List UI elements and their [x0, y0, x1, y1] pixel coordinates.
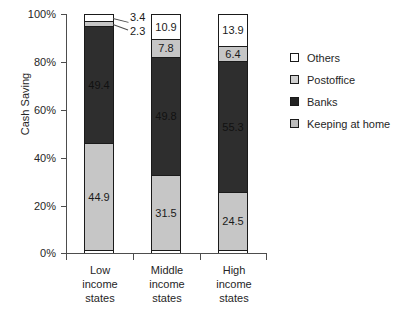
chart-legend: Others Postoffice Banks Keeping at home — [290, 48, 390, 136]
bar-low-income-states[interactable]: 3.4 2.3 49.4 44.9 — [84, 14, 114, 253]
x-category-label-high: High income states — [192, 263, 276, 305]
bar-value-keeping-at-home-middle: 31.5 — [155, 208, 176, 219]
callout-line-others-low — [113, 18, 129, 23]
bar-value-keeping-at-home-high: 24.5 — [222, 216, 243, 227]
y-axis-line — [66, 14, 67, 254]
y-tick-label-80: 80% — [0, 56, 56, 68]
bar-value-keeping-at-home-low: 44.9 — [88, 192, 109, 203]
legend-item-others[interactable]: Others — [290, 48, 390, 67]
bar-value-postoffice-middle: 7.8 — [158, 43, 173, 54]
legend-swatch-banks-icon — [290, 97, 299, 106]
bar-segment-others-middle[interactable]: 10.9 — [152, 14, 180, 40]
bar-value-banks-high: 55.3 — [222, 122, 243, 133]
x-tick-end — [266, 254, 267, 260]
callout-label-others-low: 3.4 — [130, 12, 145, 23]
legend-label-postoffice: Postoffice — [307, 74, 355, 86]
legend-item-keeping-at-home[interactable]: Keeping at home — [290, 114, 390, 133]
y-tick-40 — [61, 158, 67, 159]
y-tick-label-0: 0% — [0, 247, 56, 259]
bar-middle-income-states[interactable]: 10.9 7.8 49.8 31.5 — [151, 14, 181, 253]
bar-segment-banks-high[interactable]: 55.3 — [219, 61, 247, 193]
bar-segment-keeping-at-home-high[interactable]: 24.5 — [219, 192, 247, 251]
y-tick-20 — [61, 206, 67, 207]
bar-high-income-states[interactable]: 13.9 6.4 55.3 24.5 — [218, 14, 248, 253]
legend-swatch-postoffice-icon — [290, 75, 299, 84]
bar-value-others-high: 13.9 — [222, 25, 243, 36]
legend-item-postoffice[interactable]: Postoffice — [290, 70, 390, 89]
y-tick-label-100: 100% — [0, 8, 56, 20]
x-tick-1 — [133, 254, 134, 260]
bar-value-banks-middle: 49.8 — [155, 111, 176, 122]
bar-value-banks-low: 49.4 — [88, 80, 109, 91]
legend-swatch-keeping-at-home-icon — [290, 119, 299, 128]
stacked-bar-chart: Cash Saving 100% 80% 60% 40% 20% 0% Low … — [0, 0, 395, 312]
bar-segment-others-high[interactable]: 13.9 — [219, 14, 247, 47]
y-tick-label-40: 40% — [0, 152, 56, 164]
y-tick-100 — [61, 14, 67, 15]
x-axis-line — [66, 253, 267, 254]
callout-label-postoffice-low: 2.3 — [130, 26, 145, 37]
bar-segment-banks-middle[interactable]: 49.8 — [152, 57, 180, 176]
y-tick-80 — [61, 62, 67, 63]
legend-label-others: Others — [307, 52, 340, 64]
bar-segment-keeping-at-home-low[interactable]: 44.9 — [85, 143, 113, 251]
x-category-high-line2: income — [192, 277, 276, 291]
bar-value-others-middle: 10.9 — [155, 22, 176, 33]
legend-label-banks: Banks — [307, 96, 338, 108]
x-category-high-line3: states — [192, 291, 276, 305]
y-tick-label-60: 60% — [0, 104, 56, 116]
bar-segment-postoffice-high[interactable]: 6.4 — [219, 46, 247, 62]
y-tick-label-20: 20% — [0, 200, 56, 212]
x-tick-start — [66, 254, 67, 260]
bar-segment-postoffice-middle[interactable]: 7.8 — [152, 39, 180, 58]
bar-value-postoffice-high: 6.4 — [225, 49, 240, 60]
y-tick-60 — [61, 110, 67, 111]
legend-item-banks[interactable]: Banks — [290, 92, 390, 111]
legend-swatch-others-icon — [290, 53, 299, 62]
callout-line-postoffice-low — [113, 24, 128, 30]
bar-segment-banks-low[interactable]: 49.4 — [85, 26, 113, 144]
x-category-high-line1: High — [192, 263, 276, 277]
bar-segment-keeping-at-home-middle[interactable]: 31.5 — [152, 175, 180, 251]
x-tick-2 — [200, 254, 201, 260]
legend-label-keeping-at-home: Keeping at home — [307, 118, 390, 130]
